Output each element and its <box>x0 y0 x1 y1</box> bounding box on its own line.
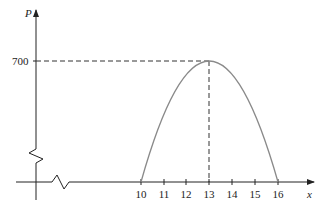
y-axis-break-icon <box>29 149 43 163</box>
x-tick-label-13: 13 <box>204 188 216 200</box>
y-axis <box>29 10 43 200</box>
x-tick-label-11: 11 <box>159 188 170 200</box>
parabola-chart: P x 700 10 11 12 13 14 15 16 <box>0 0 325 213</box>
x-tick-label-16: 16 <box>273 188 285 200</box>
x-tick-label-12: 12 <box>181 188 192 200</box>
y-tick-label-700: 700 <box>12 55 29 67</box>
y-axis-label: P <box>24 7 32 19</box>
x-axis <box>16 175 314 189</box>
x-tick-label-15: 15 <box>250 188 262 200</box>
x-axis-label: x <box>306 188 312 200</box>
x-tick-label-10: 10 <box>136 188 148 200</box>
x-axis-break-icon <box>52 175 69 189</box>
x-tick-label-14: 14 <box>227 188 239 200</box>
x-tick-labels: 10 11 12 13 14 15 16 <box>136 188 285 200</box>
